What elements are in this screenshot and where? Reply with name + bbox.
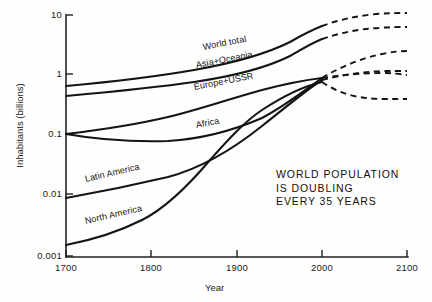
- x-tick-label-2000: 2000: [302, 262, 342, 273]
- y-tick-label-1: 1: [18, 68, 62, 79]
- x-axis-title: Year: [205, 282, 224, 293]
- curve-asia-oceania-projected: [322, 27, 407, 39]
- y-tick-label-0-001: 0.001: [18, 250, 62, 261]
- x-tick-label-2100: 2100: [387, 262, 427, 273]
- y-tick-label-0-01: 0.01: [18, 188, 62, 199]
- y-axis-title: Inhabitants (billions): [14, 70, 25, 182]
- curve-world-total-observed: [66, 26, 322, 86]
- annotation-line-3: EVERY 35 YEARS: [276, 195, 399, 209]
- annotation-line-1: WORLD POPULATION: [276, 168, 399, 182]
- annotation-line-2: IS DOUBLING: [276, 182, 399, 196]
- curve-north-america-projected: [322, 82, 407, 99]
- y-tick-label-0-1: 0.1: [18, 128, 62, 139]
- population-chart-figure: 10 1 0.1 0.01 0.001 1700 1800 1900 2000 …: [0, 0, 432, 302]
- curve-world-total-projected: [322, 13, 407, 26]
- x-tick-label-1900: 1900: [217, 262, 257, 273]
- x-tick-label-1800: 1800: [131, 262, 171, 273]
- x-tick-label-1700: 1700: [46, 262, 86, 273]
- annotation-block: WORLD POPULATION IS DOUBLING EVERY 35 YE…: [276, 168, 399, 209]
- y-tick-label-10: 10: [18, 9, 62, 20]
